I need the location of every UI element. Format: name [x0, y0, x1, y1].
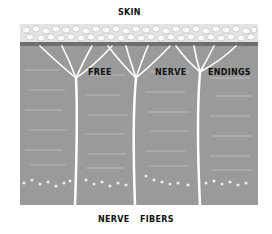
label-skin: SKIN: [118, 8, 141, 17]
label-nerve-bottom: NERVE: [98, 215, 129, 224]
skin-nerve-diagram: [0, 0, 272, 234]
label-fibers: FIBERS: [140, 215, 174, 224]
dermis-tissue: [20, 42, 258, 205]
label-nerve-top: NERVE: [155, 68, 186, 77]
label-endings: ENDINGS: [208, 68, 251, 77]
basal-layer: [20, 42, 258, 46]
label-free: FREE: [88, 68, 112, 77]
